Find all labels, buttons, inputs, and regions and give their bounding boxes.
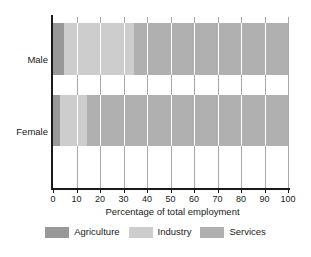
gridline-over-bar xyxy=(265,95,266,146)
gridline-over-bar xyxy=(100,23,101,75)
legend-swatch-services xyxy=(200,227,224,238)
x-tick xyxy=(77,188,78,193)
gridline-over-bar xyxy=(124,23,125,75)
category-label-male: Male xyxy=(27,54,48,66)
x-tick-label: 70 xyxy=(212,194,222,205)
y-axis-line xyxy=(51,15,53,190)
gridline-over-bar xyxy=(218,23,219,75)
x-tick xyxy=(265,188,266,193)
bar-segment-agriculture[interactable] xyxy=(53,95,60,146)
x-tick-label: 30 xyxy=(118,194,128,205)
x-tick xyxy=(288,188,289,193)
gridline-over-bar xyxy=(171,95,172,146)
bar-segment-agriculture[interactable] xyxy=(53,23,64,75)
x-tick xyxy=(171,188,172,193)
gridline-over-bar xyxy=(124,95,125,146)
x-tick xyxy=(147,188,148,193)
legend-item-industry[interactable]: Industry xyxy=(129,226,192,238)
x-tick-label: 60 xyxy=(189,194,199,205)
gridline-over-bar xyxy=(171,23,172,75)
legend: AgricultureIndustryServices xyxy=(0,226,311,238)
x-tick-label: 10 xyxy=(71,194,81,205)
legend-item-agriculture[interactable]: Agriculture xyxy=(45,226,119,238)
x-tick-label: 90 xyxy=(259,194,269,205)
bar-segment-industry[interactable] xyxy=(60,95,87,146)
x-axis-title: Percentage of total employment xyxy=(0,206,311,218)
x-tick-label: 20 xyxy=(95,194,105,205)
gridline-over-bar xyxy=(194,23,195,75)
stacked-bar-chart: 0102030405060708090100 Male Female Perce… xyxy=(0,0,311,257)
gridline xyxy=(288,17,289,188)
gridline-over-bar xyxy=(100,95,101,146)
x-tick xyxy=(241,188,242,193)
legend-swatch-industry xyxy=(129,227,153,238)
legend-swatch-agriculture xyxy=(45,227,69,238)
gridline-over-bar xyxy=(241,95,242,146)
x-tick-label: 40 xyxy=(142,194,152,205)
gridline-over-bar xyxy=(77,23,78,75)
gridline-over-bar xyxy=(147,23,148,75)
legend-item-services[interactable]: Services xyxy=(200,226,265,238)
x-tick xyxy=(100,188,101,193)
category-label-female: Female xyxy=(16,126,48,138)
gridline-over-bar xyxy=(218,95,219,146)
x-tick xyxy=(194,188,195,193)
x-tick-label: 50 xyxy=(165,194,175,205)
x-tick-label: 0 xyxy=(50,194,55,205)
gridline-over-bar xyxy=(194,95,195,146)
gridline-over-bar xyxy=(241,23,242,75)
x-tick xyxy=(218,188,219,193)
x-tick xyxy=(53,188,54,193)
x-tick-label: 100 xyxy=(280,194,295,205)
legend-label: Services xyxy=(229,226,265,238)
x-tick-label: 80 xyxy=(236,194,246,205)
gridline-over-bar xyxy=(147,95,148,146)
gridline-over-bar xyxy=(77,95,78,146)
gridline-over-bar xyxy=(265,23,266,75)
legend-label: Industry xyxy=(158,226,192,238)
legend-label: Agriculture xyxy=(74,226,119,238)
x-tick xyxy=(124,188,125,193)
bar-segment-services[interactable] xyxy=(87,95,288,146)
